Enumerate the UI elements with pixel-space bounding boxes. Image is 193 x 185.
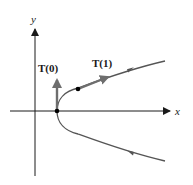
diagram-figure: x y T(0) T(1) xyxy=(0,0,193,185)
y-axis-label: y xyxy=(30,13,36,25)
parabola-lower-branch xyxy=(57,111,165,161)
tangent-vector-t1 xyxy=(78,77,108,89)
t0-label: T(0) xyxy=(38,62,59,75)
vertex-point xyxy=(55,109,60,114)
point-t1 xyxy=(76,87,81,92)
x-axis-label: x xyxy=(174,105,180,117)
orientation-arrow-lower-icon xyxy=(127,151,134,156)
t1-label: T(1) xyxy=(92,57,113,70)
